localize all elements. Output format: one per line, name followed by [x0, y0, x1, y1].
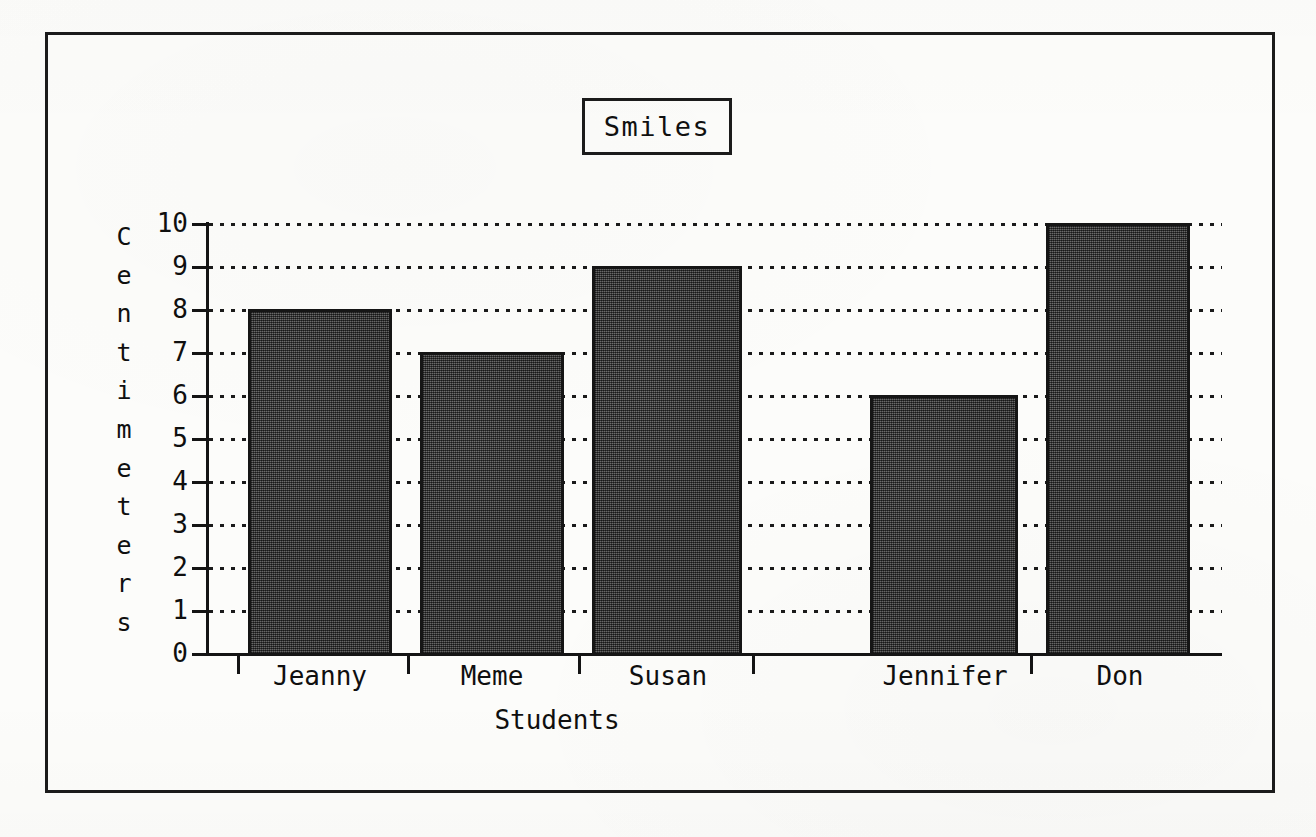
y-tick-3 — [192, 524, 209, 527]
y-tick-label-9: 9 — [150, 253, 188, 279]
x-axis-title-wrap: Students — [0, 707, 1316, 733]
y-tick-7 — [192, 352, 209, 355]
y-tick-4 — [192, 481, 209, 484]
chart-page: Smiles 10 9 — [0, 0, 1316, 837]
y-tick-8 — [192, 309, 209, 312]
x-axis-title: Students — [494, 705, 619, 735]
bar-meme[interactable] — [420, 352, 564, 656]
y-tick-label-8: 8 — [150, 296, 188, 322]
x-tick-1 — [407, 656, 410, 674]
y-tick-label-1: 1 — [150, 597, 188, 623]
x-tick-label-jeanny: Jeanny — [240, 663, 400, 689]
y-tick-label-10: 10 — [150, 210, 188, 236]
x-tick-label-susan: Susan — [588, 663, 748, 689]
bar-susan[interactable] — [592, 266, 742, 656]
y-axis-title-letter: t — [116, 488, 131, 527]
y-axis-title-letter: e — [116, 527, 131, 566]
y-axis-title-letter: C — [116, 218, 131, 257]
y-axis-title: C e n t i m e t e r s — [107, 218, 141, 643]
y-axis-title-letter: e — [116, 450, 131, 489]
y-axis-title-letter: e — [116, 257, 131, 296]
y-tick-1 — [192, 610, 209, 613]
y-tick-2 — [192, 567, 209, 570]
bar-jennifer[interactable] — [870, 395, 1018, 656]
y-tick-6 — [192, 395, 209, 398]
y-tick-5 — [192, 438, 209, 441]
chart-title: Smiles — [604, 113, 711, 140]
x-tick-label-meme: Meme — [412, 663, 572, 689]
y-tick-label-6: 6 — [150, 382, 188, 408]
x-tick-2 — [578, 656, 581, 674]
y-tick-9 — [192, 266, 209, 269]
y-axis-title-letter: m — [116, 411, 131, 450]
y-axis-title-letter: t — [116, 334, 131, 373]
y-tick-label-5: 5 — [150, 425, 188, 451]
y-tick-0 — [192, 653, 209, 656]
y-axis-title-letter: r — [116, 565, 131, 604]
x-tick-label-don: Don — [1040, 663, 1200, 689]
y-tick-label-0: 0 — [150, 640, 188, 666]
y-axis-title-letter: s — [116, 604, 131, 643]
y-axis-title-letter: i — [116, 372, 131, 411]
chart-title-box: Smiles — [582, 98, 732, 155]
x-tick-3 — [752, 656, 755, 674]
bar-don[interactable] — [1046, 223, 1190, 656]
y-axis-title-letter: n — [116, 295, 131, 334]
y-tick-label-2: 2 — [150, 554, 188, 580]
bar-jeanny[interactable] — [248, 309, 392, 656]
x-tick-label-jennifer: Jennifer — [858, 663, 1032, 689]
y-tick-label-7: 7 — [150, 339, 188, 365]
y-tick-10 — [192, 223, 209, 226]
y-tick-label-3: 3 — [150, 511, 188, 537]
y-tick-label-4: 4 — [150, 468, 188, 494]
